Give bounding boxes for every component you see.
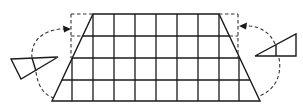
arrowhead-left-icon [239, 23, 247, 30]
left-triangle-piece [11, 57, 58, 79]
right-triangle-piece [255, 34, 296, 56]
left-rotation-arrow [32, 26, 71, 99]
right-rotation-arrow [239, 23, 280, 97]
trapezoid-grid-diagram [0, 0, 303, 107]
arrowhead-right-icon [63, 26, 71, 33]
